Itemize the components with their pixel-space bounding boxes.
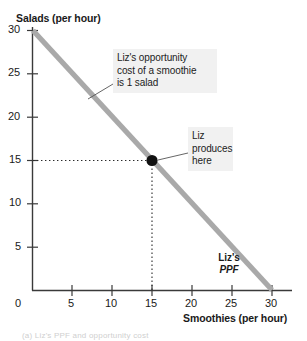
x-tick-label-10: 10 [105,298,117,309]
y-tick-label-10: 10 [9,197,21,208]
y-tick-label-20: 20 [8,111,20,122]
y-tick-label-15: 15 [9,154,21,165]
curve-label-abbrev: PPF [206,264,252,276]
x-axis-title: Smoothies (per hour) [183,313,287,324]
leader-line-produces-here [158,153,188,160]
y-axis-title: Salads (per hour) [16,13,101,24]
production-point-marker [146,155,157,166]
y-tick-label-5: 5 [15,241,21,252]
curve-label-owner: Liz's [206,252,252,264]
y-tick-label-0: 0 [15,298,21,309]
x-tick-label-20: 20 [185,298,197,309]
figure-caption: (a) Liz's PPF and opportunity cost [22,331,149,340]
x-tick-label-5: 5 [68,298,74,309]
y-tick-label-30: 30 [8,24,20,35]
x-tick-label-30: 30 [265,298,277,309]
figure-panel: Salads (per hour) 30 25 20 15 10 5 0 5 1… [0,0,307,341]
annotation-opportunity-cost: Liz's opportunity cost of a smoothie is … [113,49,217,93]
x-tick-label-15: 15 [145,298,157,309]
y-tick-label-25: 25 [8,67,20,78]
x-tick-label-25: 25 [225,298,237,309]
curve-label-ppf: Liz's PPF [206,252,252,275]
annotation-produces-here: Liz produces here [188,127,233,171]
